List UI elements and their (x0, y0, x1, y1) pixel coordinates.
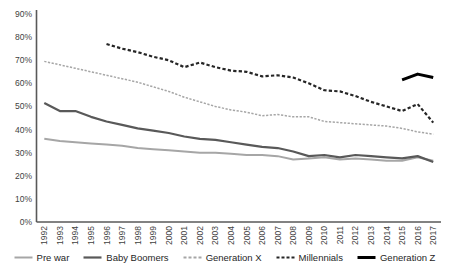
x-axis-tick-label: 2016 (413, 226, 423, 245)
x-axis-tick-label: 2009 (304, 226, 314, 245)
y-axis-tick-label: 30% (15, 148, 32, 158)
x-axis-tick-label: 2001 (179, 226, 189, 245)
legend-swatch-icon (14, 253, 33, 262)
y-axis-tick-label: 40% (15, 125, 32, 135)
x-axis-tick-labels: 1992199319941995199619971998199920002001… (39, 226, 438, 245)
x-axis-tick-label: 1998 (133, 226, 143, 245)
legend-item-label: Baby Boomers (106, 252, 168, 263)
legend-item-label: Pre war (37, 252, 70, 263)
x-axis-tick-label: 1994 (70, 226, 80, 245)
x-axis-tick-label: 2000 (164, 226, 174, 245)
y-axis-tick-label: 70% (15, 55, 32, 65)
legend-swatch-icon (357, 253, 376, 262)
x-axis-tick-label: 2013 (366, 226, 376, 245)
y-axis-tick-label: 0% (20, 217, 33, 227)
x-axis-tick-label: 2004 (226, 226, 236, 245)
data-series-group (44, 44, 433, 162)
y-axis-tick-label: 20% (15, 171, 32, 181)
chart-legend: Pre warBaby BoomersGeneration XMillennia… (0, 252, 449, 263)
x-axis-tick-label: 2015 (397, 226, 407, 245)
legend-item-label: Generation Z (380, 252, 435, 263)
x-axis-tick-label: 2005 (242, 226, 252, 245)
x-axis-tick-label: 1999 (148, 226, 158, 245)
x-axis-tick-label: 2002 (195, 226, 205, 245)
legend-swatch-icon (276, 253, 295, 262)
y-axis-tick-label: 80% (15, 32, 32, 42)
series-line-millennials (107, 44, 434, 123)
y-axis-tick-label: 90% (15, 9, 32, 19)
series-line-baby-boomers (44, 103, 433, 162)
x-axis-tick-label: 2007 (273, 226, 283, 245)
legend-item-generation-x[interactable]: Generation X (183, 252, 262, 263)
legend-swatch-icon (83, 253, 102, 262)
x-axis-tick-label: 1997 (117, 226, 127, 245)
x-axis-tick-label: 2006 (257, 226, 267, 245)
line-chart: 0%10%20%30%40%50%60%70%80%90% 1992199319… (0, 0, 449, 278)
legend-item-millennials[interactable]: Millennials (276, 252, 343, 263)
x-axis-tick-label: 1993 (55, 226, 65, 245)
x-axis-tick-label: 2014 (382, 226, 392, 245)
x-axis-tick-label: 2012 (350, 226, 360, 245)
x-axis-tick-label: 2010 (319, 226, 329, 245)
y-axis-tick-label: 50% (15, 101, 32, 111)
legend-item-label: Generation X (206, 252, 262, 263)
y-axis-tick-labels: 0%10%20%30%40%50%60%70%80%90% (15, 9, 32, 227)
legend-item-label: Millennials (299, 252, 343, 263)
axis-lines (37, 10, 442, 222)
legend-item-pre-war[interactable]: Pre war (14, 252, 70, 263)
series-line-generation-z (402, 74, 433, 80)
x-axis-tick-label: 1995 (86, 226, 96, 245)
x-axis-tick-label: 2011 (335, 226, 345, 245)
y-axis-tick-label: 60% (15, 78, 32, 88)
chart-plot-area: 0%10%20%30%40%50%60%70%80%90% 1992199319… (0, 0, 449, 278)
x-axis-tick-label: 2003 (210, 226, 220, 245)
y-axis-tick-label: 10% (15, 194, 32, 204)
x-axis-tick-label: 1996 (102, 226, 112, 245)
legend-item-generation-z[interactable]: Generation Z (357, 252, 435, 263)
legend-item-baby-boomers[interactable]: Baby Boomers (83, 252, 168, 263)
x-axis-tick-label: 2008 (288, 226, 298, 245)
x-axis-tick-label: 1992 (39, 226, 49, 245)
legend-swatch-icon (183, 253, 202, 262)
x-axis-tick-label: 2017 (428, 226, 438, 245)
